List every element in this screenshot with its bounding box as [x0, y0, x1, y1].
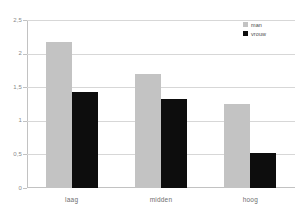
plot-area: [27, 20, 295, 188]
legend-item-man: man: [243, 21, 266, 28]
category-label-hoog: hoog: [206, 196, 295, 204]
y-axis-tick-mark: [23, 121, 27, 122]
bar-man-hoog: [224, 104, 250, 188]
y-axis-tick-mark: [23, 20, 27, 21]
legend: manvrouw: [243, 21, 266, 37]
y-axis-tick-label: 1: [19, 117, 22, 124]
category-label-laag: laag: [27, 196, 116, 204]
bar-man-midden: [135, 74, 161, 188]
y-axis-tick-mark: [23, 188, 27, 189]
y-axis-tick-mark: [23, 54, 27, 55]
y-axis-tick-label: 0: [19, 185, 22, 192]
y-axis-tick-label: 2,5: [13, 17, 22, 24]
y-axis-tick-label: 0,5: [13, 151, 22, 158]
legend-swatch-icon: [243, 22, 248, 27]
y-axis-tick-labels: 00,511,522,5: [0, 0, 22, 215]
y-axis-tick-mark: [23, 154, 27, 155]
y-axis-line: [27, 20, 28, 188]
y-axis-tick-mark: [23, 87, 27, 88]
legend-label: man: [251, 22, 262, 28]
y-axis-tick-label: 1,5: [13, 84, 22, 91]
legend-item-vrouw: vrouw: [243, 30, 266, 37]
legend-label: vrouw: [251, 31, 266, 37]
legend-swatch-icon: [243, 31, 248, 36]
bar-vrouw-laag: [72, 92, 98, 188]
bar-vrouw-hoog: [250, 153, 276, 188]
y-axis-tick-label: 2: [19, 50, 22, 57]
bar-man-laag: [46, 42, 72, 188]
bar-chart: 00,511,522,5 laagmiddenhoog manvrouw: [0, 0, 308, 215]
category-label-midden: midden: [116, 196, 205, 204]
bar-vrouw-midden: [161, 99, 187, 188]
